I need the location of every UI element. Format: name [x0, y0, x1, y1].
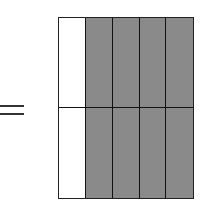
unshaded-cell — [59, 18, 86, 108]
shaded-cell — [140, 18, 167, 108]
shaded-cell — [166, 108, 193, 198]
shaded-cell — [140, 108, 167, 198]
unshaded-cell — [59, 108, 86, 198]
shaded-cell — [86, 18, 113, 108]
equals-bottom-bar — [0, 113, 24, 115]
fraction-grid — [58, 17, 194, 199]
equals-top-bar — [0, 105, 24, 107]
shaded-cell — [113, 108, 140, 198]
shaded-cell — [86, 108, 113, 198]
shaded-cell — [166, 18, 193, 108]
shaded-cell — [113, 18, 140, 108]
